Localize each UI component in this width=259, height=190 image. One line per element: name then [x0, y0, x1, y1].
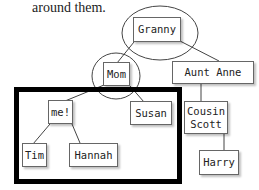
node-aunt-anne: Aunt Anne	[172, 61, 254, 84]
node-cousin-scott: Cousin Scott	[184, 101, 228, 134]
node-mom: Mom	[103, 62, 130, 86]
node-hannah: Hannah	[69, 143, 118, 167]
node-harry: Harry	[199, 150, 239, 175]
node-me: me!	[48, 100, 73, 124]
node-susan: Susan	[130, 101, 172, 125]
node-tim: Tim	[22, 143, 47, 167]
node-granny: Granny	[133, 17, 181, 42]
edge-granny-aunt	[180, 41, 219, 61]
